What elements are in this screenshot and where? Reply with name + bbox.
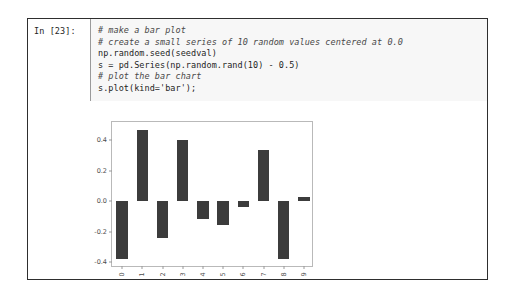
y-axis-tick-mark [109, 140, 112, 141]
x-axis-tick-mark [182, 266, 183, 269]
code-editor[interactable]: # make a bar plot# create a small series… [90, 19, 487, 101]
x-axis-tick-mark [162, 266, 163, 269]
x-axis-tick-label: 1 [139, 272, 146, 276]
x-axis-tick-label: 0 [119, 272, 126, 276]
x-axis-tick-label: 2 [159, 272, 166, 276]
x-axis-tick-mark [283, 266, 284, 269]
input-prompt-label: In [23]: [28, 19, 90, 101]
x-axis-tick-mark [263, 266, 264, 269]
bar [137, 130, 148, 201]
x-axis-tick-mark [223, 266, 224, 269]
y-axis-tick-mark [109, 201, 112, 202]
bar [116, 201, 127, 259]
x-axis-tick-mark [122, 266, 123, 269]
bar [197, 201, 208, 219]
x-axis-tick-label: 3 [179, 272, 186, 276]
code-line: s = pd.Series(np.random.rand(10) - 0.5) [98, 60, 487, 72]
x-axis-tick-label: 7 [260, 272, 267, 276]
code-line: # make a bar plot [98, 25, 487, 37]
x-axis-tick-mark [303, 266, 304, 269]
x-axis-tick-label: 6 [240, 272, 247, 276]
code-line: # plot the bar chart [98, 71, 487, 83]
x-axis-tick-label: 5 [220, 272, 227, 276]
bar-series [112, 122, 312, 266]
code-line: s.plot(kind='bar'); [98, 83, 487, 95]
notebook-cell: In [23]: # make a bar plot# create a sma… [27, 18, 488, 280]
cell-output-area: 0.40.20.0-0.2-0.40123456789 [28, 101, 487, 279]
screenshot-root: In [23]: # make a bar plot# create a sma… [0, 0, 508, 294]
bar [298, 197, 309, 202]
cell-input-row: In [23]: # make a bar plot# create a sma… [28, 19, 487, 101]
y-axis-tick-mark [109, 231, 112, 232]
bar [217, 201, 228, 225]
bar [157, 201, 168, 238]
x-axis-tick-label: 9 [300, 272, 307, 276]
x-axis-tick-mark [142, 266, 143, 269]
bar [278, 201, 289, 259]
bar [238, 201, 249, 207]
x-axis-tick-mark [243, 266, 244, 269]
code-line: np.random.seed(seedval) [98, 48, 487, 60]
y-axis-tick-mark [109, 261, 112, 262]
bar [258, 150, 269, 201]
plot-axes: 0.40.20.0-0.2-0.40123456789 [111, 121, 313, 267]
x-axis-tick-label: 4 [199, 272, 206, 276]
x-axis-tick-label: 8 [280, 272, 287, 276]
y-axis-tick-mark [109, 170, 112, 171]
bar [177, 140, 188, 201]
matplotlib-figure: 0.40.20.0-0.2-0.40123456789 [80, 109, 370, 277]
code-line: # create a small series of 10 random val… [98, 37, 487, 49]
x-axis-tick-mark [202, 266, 203, 269]
